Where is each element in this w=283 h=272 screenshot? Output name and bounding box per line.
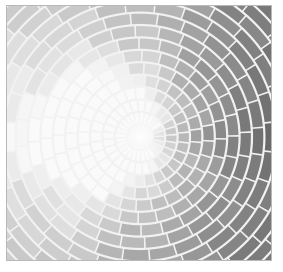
figure-stage [0, 0, 283, 272]
radial-tile-mosaic-canvas [6, 5, 272, 261]
